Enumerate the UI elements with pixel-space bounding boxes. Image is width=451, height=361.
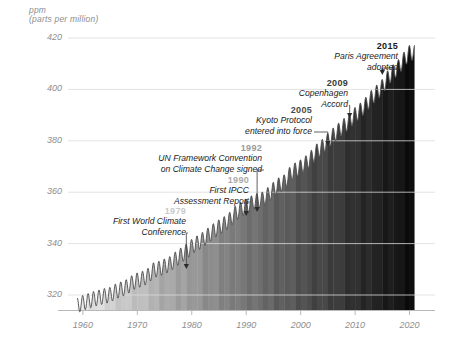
annotation-text-2009-line2: Accord <box>118 99 348 110</box>
x-tick-label-1960: 1960 <box>63 320 103 330</box>
annotation-text-1979-line1: First World Climate <box>0 216 186 227</box>
annotation-text-2005-line1: Kyoto Protocol <box>82 115 312 126</box>
annotation-year-1990: 1990 <box>19 175 249 185</box>
y-tick-label-340: 340 <box>36 238 62 248</box>
annotation-year-1992: 1992 <box>32 143 262 153</box>
annotation-text-1992-line2: on Climate Change signed <box>32 164 262 175</box>
x-tick-label-2000: 2000 <box>281 320 321 330</box>
x-tick-label-1990: 1990 <box>226 320 266 330</box>
x-tick-label-1970: 1970 <box>117 320 157 330</box>
annotation-2009: 2009CopenhagenAccord <box>118 78 348 109</box>
annotation-text-1990-line2: Assessment Report <box>19 196 249 207</box>
annotation-text-2009-line1: Copenhagen <box>118 88 348 99</box>
y-tick-label-400: 400 <box>36 83 62 93</box>
annotation-1990: 1990First IPCCAssessment Report <box>19 175 249 206</box>
x-tick-label-1980: 1980 <box>172 320 212 330</box>
annotation-text-1992-line1: UN Framework Convention <box>32 153 262 164</box>
annotation-text-2015-line1: Paris Agreement <box>168 51 398 62</box>
x-tick-label-2010: 2010 <box>335 320 375 330</box>
annotation-1992: 1992UN Framework Conventionon Climate Ch… <box>32 143 262 174</box>
annotation-text-1979-line2: Conference <box>0 227 186 238</box>
annotation-year-2015: 2015 <box>168 41 398 51</box>
annotation-2005: 2005Kyoto Protocolentered into force <box>82 105 312 136</box>
annotation-2015: 2015Paris Agreementadopted <box>168 41 398 72</box>
annotation-1979: 1979First World ClimateConference <box>0 206 186 237</box>
annotation-year-1979: 1979 <box>0 206 186 216</box>
y-tick-label-320: 320 <box>36 289 62 299</box>
annotation-text-2005-line2: entered into force <box>82 126 312 137</box>
annotation-year-2009: 2009 <box>118 78 348 88</box>
annotation-text-1990-line1: First IPCC <box>19 185 249 196</box>
annotation-text-2015-line2: adopted <box>168 62 398 73</box>
y-tick-label-420: 420 <box>36 32 62 42</box>
x-tick-label-2020: 2020 <box>390 320 430 330</box>
co2-keeling-curve-chart: ppm (parts per million) 3203403603804004… <box>0 0 451 361</box>
